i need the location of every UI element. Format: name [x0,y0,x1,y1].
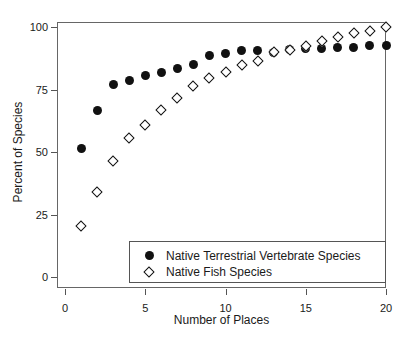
y-tick-label: 100 [4,22,48,32]
data-point [365,41,374,50]
y-tick-label: 0 [4,272,48,282]
data-point [205,51,214,60]
data-point [189,60,198,69]
data-point [172,93,183,104]
x-tick-label: 10 [219,302,231,314]
y-tick-label: 75 [4,85,48,95]
data-point [380,21,391,32]
x-tick-label: 0 [62,302,68,314]
x-tick [145,289,146,295]
data-point [253,46,262,55]
data-point [93,106,102,115]
filled-circle-icon [140,249,160,263]
data-point [75,220,86,231]
x-tick [386,289,387,295]
data-point [157,68,166,77]
data-point [125,76,134,85]
data-point [124,133,135,144]
data-point [91,186,102,197]
data-point [252,55,263,66]
data-point [364,25,375,36]
data-point [348,28,359,39]
data-point [382,41,391,50]
open-diamond-icon [140,265,160,279]
legend-item-fish: Native Fish Species [140,263,272,280]
data-point [141,71,150,80]
y-tick [51,215,57,216]
x-axis-title: Number of Places [57,313,386,327]
data-point [156,104,167,115]
data-point [107,155,118,166]
data-point [236,59,247,70]
x-tick [65,289,66,295]
y-tick-label: 50 [4,147,48,157]
y-tick [51,152,57,153]
data-point [332,31,343,42]
data-point [220,66,231,77]
data-point [173,64,182,73]
data-point [109,80,118,89]
x-tick [306,289,307,295]
legend-label: Native Terrestrial Vertebrate Species [166,249,361,263]
x-tick [226,289,227,295]
legend-label: Native Fish Species [166,265,272,279]
scatter-plot-figure: Percent of Species Number of Places Nati… [0,0,411,346]
x-tick-label: 15 [300,302,312,314]
data-point [188,80,199,91]
x-tick-label: 5 [142,302,148,314]
data-point [77,144,86,153]
x-tick-label: 20 [380,302,392,314]
y-tick-label: 25 [4,210,48,220]
chart-legend: Native Terrestrial Vertebrate Species Na… [129,241,386,283]
data-point [349,43,358,52]
data-point [204,73,215,84]
data-point [221,49,230,58]
y-tick [51,277,57,278]
y-tick [51,27,57,28]
data-point [140,119,151,130]
data-point [333,43,342,52]
data-point [237,46,246,55]
y-tick [51,90,57,91]
legend-item-terrestrial: Native Terrestrial Vertebrate Species [140,247,361,264]
